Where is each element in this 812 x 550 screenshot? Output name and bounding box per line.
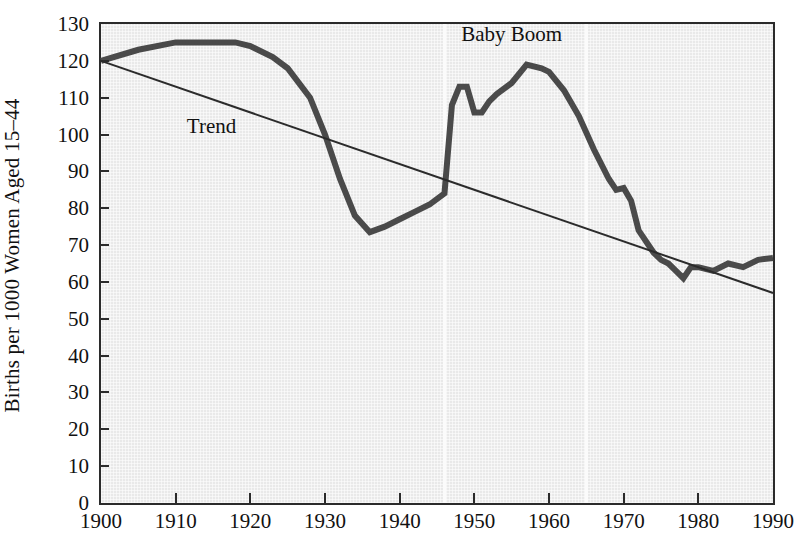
x-tick-mark bbox=[697, 493, 699, 503]
baby-boom-annotation: Baby Boom bbox=[461, 24, 562, 45]
y-tick-label: 70 bbox=[43, 235, 89, 256]
y-tick-mark bbox=[100, 465, 109, 467]
y-tick-mark bbox=[100, 244, 109, 246]
y-tick-mark bbox=[100, 355, 109, 357]
y-tick-label: 130 bbox=[43, 14, 89, 35]
x-tick-mark bbox=[473, 493, 475, 503]
y-axis-title: Births per 1000 Women Aged 15–44 bbox=[0, 6, 25, 506]
y-tick-label: 110 bbox=[43, 87, 89, 108]
y-tick-label: 50 bbox=[43, 308, 89, 329]
y-tick-label: 30 bbox=[43, 382, 89, 403]
y-tick-mark bbox=[100, 97, 109, 99]
y-tick-mark bbox=[100, 391, 109, 393]
y-tick-mark bbox=[100, 134, 109, 136]
x-tick-mark bbox=[175, 493, 177, 503]
y-tick-label: 10 bbox=[43, 456, 89, 477]
series-trend bbox=[101, 61, 773, 293]
y-tick-label: 40 bbox=[43, 345, 89, 366]
x-tick-label: 1970 bbox=[603, 511, 645, 532]
y-tick-label: 90 bbox=[43, 161, 89, 182]
x-tick-mark bbox=[399, 493, 401, 503]
y-tick-label: 100 bbox=[43, 124, 89, 145]
x-tick-label: 1930 bbox=[304, 511, 346, 532]
y-tick-label: 60 bbox=[43, 271, 89, 292]
x-tick-mark bbox=[623, 493, 625, 503]
birth-rate-chart: Births per 1000 Women Aged 15–44 Trend B… bbox=[0, 0, 812, 550]
y-tick-label: 120 bbox=[43, 50, 89, 71]
x-tick-label: 1920 bbox=[229, 511, 271, 532]
x-tick-mark bbox=[249, 493, 251, 503]
x-tick-label: 1940 bbox=[379, 511, 421, 532]
x-tick-mark bbox=[548, 493, 550, 503]
x-tick-label: 1990 bbox=[752, 511, 794, 532]
series-layer bbox=[101, 24, 773, 503]
x-tick-label: 1960 bbox=[528, 511, 570, 532]
y-tick-mark bbox=[100, 170, 109, 172]
y-tick-mark bbox=[100, 428, 109, 430]
y-tick-mark bbox=[100, 207, 109, 209]
y-tick-mark bbox=[100, 60, 109, 62]
x-tick-label: 1980 bbox=[677, 511, 719, 532]
x-tick-label: 1910 bbox=[155, 511, 197, 532]
series-birth-rate bbox=[101, 42, 773, 278]
x-tick-label: 1900 bbox=[80, 511, 122, 532]
trend-annotation: Trend bbox=[187, 116, 236, 137]
y-tick-label: 20 bbox=[43, 419, 89, 440]
plot-area: Trend Baby Boom bbox=[99, 22, 775, 505]
y-tick-mark bbox=[100, 318, 109, 320]
x-tick-label: 1950 bbox=[453, 511, 495, 532]
x-tick-mark bbox=[324, 493, 326, 503]
y-tick-mark bbox=[100, 281, 109, 283]
y-tick-label: 80 bbox=[43, 198, 89, 219]
